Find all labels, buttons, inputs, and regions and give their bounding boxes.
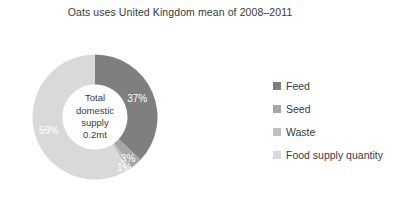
donut-chart-figure: Oats uses United Kingdom mean of 2008–20… xyxy=(0,0,403,214)
legend-swatch-icon-food-supply-quantity xyxy=(273,151,281,159)
chart-title: Oats uses United Kingdom mean of 2008–20… xyxy=(0,6,360,18)
data-label-feed: 37% xyxy=(127,93,147,104)
legend-label-waste: Waste xyxy=(286,126,315,138)
chart-legend: Feed Seed Waste Food supply quantity xyxy=(273,74,401,166)
donut-chart-plot-area: 37% 3% 1% 59% xyxy=(32,54,158,180)
legend-swatch-icon-seed xyxy=(273,105,281,113)
legend-item-feed[interactable]: Feed xyxy=(273,74,401,97)
legend-item-food-supply-quantity[interactable]: Food supply quantity xyxy=(273,143,401,166)
legend-label-food-supply-quantity: Food supply quantity xyxy=(286,149,383,161)
data-label-food: 59% xyxy=(39,125,59,136)
legend-swatch-icon-waste xyxy=(273,128,281,136)
slice-feed[interactable] xyxy=(95,55,157,160)
donut-svg: 37% 3% 1% 59% xyxy=(32,54,158,180)
donut-slices xyxy=(33,55,158,180)
data-label-waste: 1% xyxy=(117,162,132,173)
legend-item-seed[interactable]: Seed xyxy=(273,97,401,120)
legend-swatch-icon-feed xyxy=(273,82,281,90)
legend-label-feed: Feed xyxy=(286,80,310,92)
legend-label-seed: Seed xyxy=(286,103,311,115)
legend-item-waste[interactable]: Waste xyxy=(273,120,401,143)
